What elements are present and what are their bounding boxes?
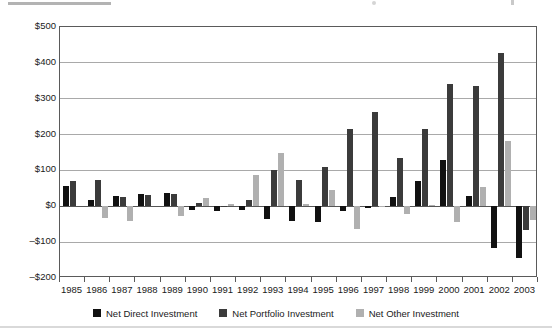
legend-swatch-other bbox=[356, 309, 364, 317]
bar[interactable] bbox=[340, 206, 346, 210]
bar[interactable] bbox=[390, 197, 396, 207]
y-axis-tick-label: $400 bbox=[4, 57, 56, 67]
bar[interactable] bbox=[145, 195, 151, 206]
bar[interactable] bbox=[505, 141, 511, 207]
bar[interactable] bbox=[70, 181, 76, 206]
bar[interactable] bbox=[440, 160, 446, 207]
bar[interactable] bbox=[491, 206, 497, 247]
bar[interactable] bbox=[473, 86, 479, 206]
chart-figure: $500$400$300$200$100$0–$100–$200 1985198… bbox=[0, 0, 552, 330]
bar[interactable] bbox=[203, 198, 209, 206]
bar[interactable] bbox=[322, 167, 328, 206]
bar[interactable] bbox=[214, 206, 220, 210]
y-axis-tick-label: $300 bbox=[4, 93, 56, 103]
y-axis-tick-label: $100 bbox=[4, 164, 56, 174]
bar[interactable] bbox=[113, 196, 119, 206]
bar[interactable] bbox=[221, 206, 227, 207]
bar[interactable] bbox=[120, 197, 126, 206]
bar[interactable] bbox=[246, 200, 252, 206]
bar[interactable] bbox=[480, 187, 486, 207]
bar[interactable] bbox=[429, 205, 435, 206]
bar[interactable] bbox=[127, 206, 133, 220]
bar-group-1989 bbox=[161, 27, 186, 276]
bar-group-1999 bbox=[412, 27, 437, 276]
bar[interactable] bbox=[95, 180, 101, 206]
bar[interactable] bbox=[303, 204, 309, 206]
y-axis-tick-labels: $500$400$300$200$100$0–$100–$200 bbox=[0, 26, 56, 277]
bar-group-2000 bbox=[437, 27, 462, 276]
y-axis-tick-label: –$200 bbox=[4, 272, 56, 282]
legend-item[interactable]: Net Other Investment bbox=[356, 308, 459, 319]
x-axis-label-2003: 2003 bbox=[504, 284, 544, 295]
legend-item-label: Net Direct Investment bbox=[106, 308, 197, 319]
bar-group-1994 bbox=[286, 27, 311, 276]
bar[interactable] bbox=[466, 196, 472, 207]
bar[interactable] bbox=[354, 206, 360, 228]
x-axis-tick-mark bbox=[487, 277, 488, 282]
bar-group-2002 bbox=[488, 27, 513, 276]
bar[interactable] bbox=[264, 206, 270, 219]
bar[interactable] bbox=[422, 129, 428, 206]
bar[interactable] bbox=[171, 194, 177, 207]
bar-group-1985 bbox=[60, 27, 85, 276]
bar[interactable] bbox=[372, 112, 378, 206]
bar[interactable] bbox=[516, 206, 522, 258]
bar-group-1986 bbox=[85, 27, 110, 276]
legend-item-label: Net Portfolio Investment bbox=[232, 308, 333, 319]
bar[interactable] bbox=[454, 206, 460, 221]
bar[interactable] bbox=[415, 181, 421, 206]
bar[interactable] bbox=[329, 190, 335, 206]
bar[interactable] bbox=[178, 206, 184, 216]
x-axis-tick-mark bbox=[436, 277, 437, 282]
bar-group-2001 bbox=[463, 27, 488, 276]
bar[interactable] bbox=[102, 206, 108, 217]
bottom-rule-artifact bbox=[0, 326, 552, 328]
bar[interactable] bbox=[138, 194, 144, 207]
bar[interactable] bbox=[228, 204, 234, 206]
bar[interactable] bbox=[397, 158, 403, 206]
y-axis-tick-label: $200 bbox=[4, 129, 56, 139]
bar[interactable] bbox=[296, 180, 302, 206]
legend-item[interactable]: Net Direct Investment bbox=[93, 308, 197, 319]
bar-group-1992 bbox=[236, 27, 261, 276]
x-axis-tick-mark bbox=[109, 277, 110, 282]
bar[interactable] bbox=[88, 200, 94, 206]
bar[interactable] bbox=[189, 206, 195, 209]
x-axis-tick-mark bbox=[462, 277, 463, 282]
bar[interactable] bbox=[523, 206, 529, 229]
bar-group-1995 bbox=[312, 27, 337, 276]
bar[interactable] bbox=[530, 206, 536, 220]
bar[interactable] bbox=[379, 206, 385, 207]
bar[interactable] bbox=[239, 206, 245, 210]
bar[interactable] bbox=[347, 129, 353, 206]
x-axis-tick-mark bbox=[210, 277, 211, 282]
bar[interactable] bbox=[365, 206, 371, 208]
plot-area bbox=[59, 26, 537, 277]
x-axis-tick-mark bbox=[160, 277, 161, 282]
bar[interactable] bbox=[498, 53, 504, 206]
x-axis-tick-mark bbox=[134, 277, 135, 282]
bar[interactable] bbox=[447, 84, 453, 206]
bar-group-1997 bbox=[362, 27, 387, 276]
bar[interactable] bbox=[289, 206, 295, 220]
bar-group-2003 bbox=[513, 27, 538, 276]
bar[interactable] bbox=[196, 203, 202, 206]
y-axis-tick-label: –$100 bbox=[4, 236, 56, 246]
x-axis-tick-mark bbox=[336, 277, 337, 282]
bar[interactable] bbox=[63, 186, 69, 206]
bar[interactable] bbox=[404, 206, 410, 214]
bar[interactable] bbox=[315, 206, 321, 222]
bar-group-1988 bbox=[135, 27, 160, 276]
x-axis-tick-mark bbox=[411, 277, 412, 282]
bar[interactable] bbox=[271, 170, 277, 206]
legend-swatch-portfolio bbox=[219, 309, 227, 317]
x-axis-tick-mark bbox=[235, 277, 236, 282]
bar-group-1991 bbox=[211, 27, 236, 276]
bar[interactable] bbox=[253, 175, 259, 207]
legend-item[interactable]: Net Portfolio Investment bbox=[219, 308, 333, 319]
bar[interactable] bbox=[164, 193, 170, 206]
bar[interactable] bbox=[278, 153, 284, 206]
x-axis-tick-mark bbox=[311, 277, 312, 282]
x-axis-tick-mark bbox=[361, 277, 362, 282]
x-axis-tick-mark bbox=[185, 277, 186, 282]
